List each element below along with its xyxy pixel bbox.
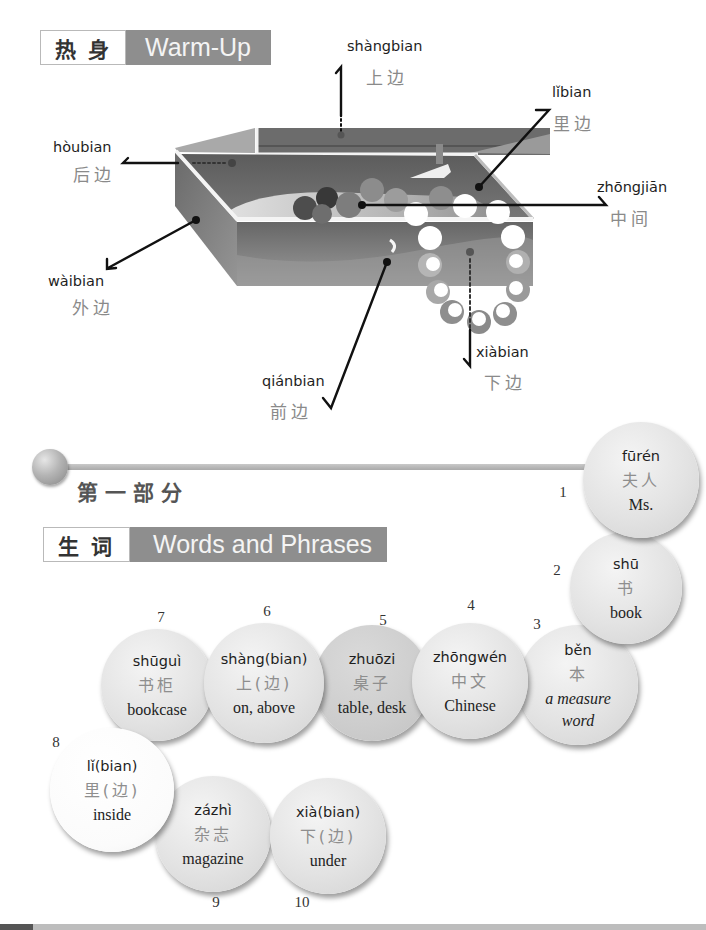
vocab-hanzi: 书柜 bbox=[138, 673, 176, 699]
vocab-pinyin: xià(bian) bbox=[296, 800, 360, 824]
label-zhongjian-pinyin: zhōngjiān bbox=[597, 179, 667, 195]
vocab-card-1: fūrén 夫人 Ms. bbox=[583, 422, 699, 538]
label-qianbian-pinyin: qiánbian bbox=[262, 373, 325, 389]
vocab-hanzi: 本 bbox=[569, 662, 588, 688]
label-shangbian-hanzi: 上边 bbox=[366, 64, 408, 89]
vocab-english: magazine bbox=[182, 848, 243, 870]
vocab-pinyin: lǐ(bian) bbox=[87, 754, 138, 778]
label-houbian-hanzi: 后边 bbox=[73, 161, 115, 186]
vocab-english: a measure word bbox=[533, 688, 623, 732]
vocab-english: inside bbox=[93, 804, 131, 826]
label-waibian-hanzi: 外边 bbox=[72, 294, 114, 319]
vocab-header: 生词 Words and Phrases bbox=[43, 527, 387, 562]
leader-shangbian bbox=[336, 67, 341, 116]
vocab-pinyin: zhōngwén bbox=[433, 645, 507, 669]
label-libian-pinyin: lǐbian bbox=[552, 84, 591, 100]
vocab-pinyin: běn bbox=[564, 638, 591, 662]
vocab-pinyin: fūrén bbox=[622, 444, 660, 468]
vocab-card-8: lǐ(bian) 里(边) inside bbox=[50, 728, 174, 852]
vocab-header-zh: 生词 bbox=[43, 527, 130, 562]
vocab-number-3: 3 bbox=[533, 616, 541, 633]
vocab-number-2: 2 bbox=[553, 562, 561, 579]
vocab-hanzi: 书 bbox=[617, 576, 636, 602]
vocab-english: table, desk bbox=[338, 697, 406, 719]
warmup-illustration bbox=[0, 0, 706, 430]
vocab-english: under bbox=[310, 850, 346, 872]
vocab-number-1: 1 bbox=[559, 484, 567, 501]
label-shangbian-pinyin: shàngbian bbox=[347, 38, 422, 54]
vocab-card-4: zhōngwén 中文 Chinese bbox=[412, 623, 528, 739]
vocab-card-6: shàng(bian) 上(边) on, above bbox=[204, 623, 324, 743]
vocab-hanzi: 下(边) bbox=[300, 824, 356, 850]
leader-xiabian bbox=[464, 330, 470, 366]
vocab-number-8: 8 bbox=[52, 734, 60, 751]
vocab-number-4: 4 bbox=[467, 597, 475, 614]
label-waibian-pinyin: wàibian bbox=[48, 273, 104, 289]
label-xiabian-hanzi: 下边 bbox=[484, 369, 526, 394]
leader-houbian bbox=[123, 158, 178, 163]
vocab-card-2: shū 书 book bbox=[570, 532, 682, 644]
vocab-english: Ms. bbox=[629, 494, 653, 516]
label-zhongjian-hanzi: 中间 bbox=[610, 205, 652, 230]
vocab-number-6: 6 bbox=[263, 603, 271, 620]
label-xiabian-pinyin: xiàbian bbox=[476, 344, 529, 360]
vocab-number-9: 9 bbox=[212, 894, 220, 911]
label-libian-hanzi: 里边 bbox=[553, 110, 595, 135]
vocab-pinyin: shàng(bian) bbox=[221, 647, 308, 671]
vocab-hanzi: 杂志 bbox=[194, 822, 232, 848]
vocab-hanzi: 里(边) bbox=[84, 778, 140, 804]
vocab-card-7: shūguì 书柜 bookcase bbox=[101, 629, 213, 741]
vocab-pinyin: zhuōzi bbox=[349, 647, 396, 671]
page-bottom-bar-accent bbox=[0, 924, 33, 930]
vocab-number-10: 10 bbox=[295, 894, 310, 911]
vocab-header-en: Words and Phrases bbox=[130, 527, 387, 562]
leader-waibian bbox=[107, 220, 196, 269]
vocab-english: Chinese bbox=[444, 695, 496, 717]
vocab-english: on, above bbox=[233, 697, 295, 719]
vocab-number-7: 7 bbox=[157, 609, 165, 626]
vocab-english: book bbox=[610, 602, 642, 624]
vocab-pinyin: shūguì bbox=[133, 649, 181, 673]
vocab-hanzi: 夫人 bbox=[622, 468, 660, 494]
vocab-hanzi: 中文 bbox=[451, 669, 489, 695]
label-qianbian-hanzi: 前边 bbox=[270, 398, 312, 423]
vocab-hanzi: 桌子 bbox=[353, 671, 391, 697]
section-divider-bar bbox=[60, 464, 592, 470]
vocab-pinyin: shū bbox=[613, 552, 639, 576]
vocab-hanzi: 上(边) bbox=[236, 671, 292, 697]
label-houbian-pinyin: hòubian bbox=[53, 139, 112, 155]
vocab-pinyin: zázhì bbox=[194, 798, 231, 822]
section-bullet-icon bbox=[32, 449, 68, 485]
vocab-english: bookcase bbox=[127, 699, 187, 721]
page-bottom-bar bbox=[0, 924, 706, 930]
vocab-card-10: xià(bian) 下(边) under bbox=[270, 778, 386, 894]
section-title: 第一部分 bbox=[77, 476, 189, 506]
